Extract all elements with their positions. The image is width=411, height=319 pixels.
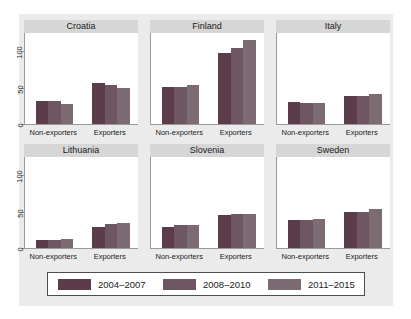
bar xyxy=(369,209,382,248)
x-axis-tick-label: Non-exporters xyxy=(281,128,329,137)
panel-title: Finland xyxy=(150,20,264,33)
legend: 2004–20072008–20102011–2015 xyxy=(47,272,365,296)
bar-group-container xyxy=(25,157,138,248)
bar xyxy=(117,88,130,124)
bar-group-container xyxy=(151,33,264,124)
bar xyxy=(300,220,313,248)
bar xyxy=(288,220,301,248)
x-axis-labels: Non-exportersExporters xyxy=(24,125,138,138)
panel-slovenia: SloveniaNon-exportersExporters xyxy=(150,144,264,262)
bar-group-container xyxy=(25,33,138,124)
legend-item[interactable]: 2011–2015 xyxy=(268,278,355,290)
bar xyxy=(174,225,187,248)
x-axis-tick-label: Non-exporters xyxy=(281,252,329,261)
bar xyxy=(231,48,244,124)
x-axis-tick-label: Exporters xyxy=(220,128,252,137)
bar xyxy=(48,101,61,124)
y-axis-tick-label: 0 xyxy=(16,123,25,127)
plot-area xyxy=(276,157,390,249)
bar xyxy=(344,212,357,248)
y-axis-tick-label: 50 xyxy=(16,209,25,217)
panel-title: Italy xyxy=(276,20,390,33)
bar xyxy=(187,85,200,124)
bar xyxy=(36,101,49,124)
legend-item[interactable]: 2004–2007 xyxy=(58,278,146,290)
bar xyxy=(92,83,105,124)
plot-area xyxy=(276,33,390,125)
bar xyxy=(357,212,370,248)
x-axis-tick-label: Exporters xyxy=(220,252,252,261)
bar xyxy=(48,240,61,248)
bar xyxy=(218,215,231,248)
bar xyxy=(105,224,118,248)
x-axis-tick-label: Exporters xyxy=(346,252,378,261)
bar xyxy=(61,104,74,124)
panel-croatia: CroatiaNon-exportersExporters050100 xyxy=(24,20,138,138)
x-axis-tick-label: Non-exporters xyxy=(155,128,203,137)
bar xyxy=(92,227,105,248)
figure: CroatiaNon-exportersExporters050100Finla… xyxy=(0,0,411,319)
panel-finland: FinlandNon-exportersExporters xyxy=(150,20,264,138)
y-axis-tick-label: 100 xyxy=(16,46,25,59)
panel-title: Sweden xyxy=(276,144,390,157)
legend-label: 2011–2015 xyxy=(308,279,355,290)
panel-title: Lithuania xyxy=(24,144,138,157)
x-axis-labels: Non-exportersExporters xyxy=(150,125,264,138)
bar xyxy=(243,40,256,124)
x-axis-labels: Non-exportersExporters xyxy=(24,249,138,262)
y-axis-tick-label: 50 xyxy=(16,85,25,93)
bar xyxy=(117,223,130,248)
bar xyxy=(300,103,313,124)
x-axis-tick-label: Exporters xyxy=(346,128,378,137)
plot-area xyxy=(24,157,138,249)
bar xyxy=(61,239,74,248)
panel-sweden: SwedenNon-exportersExporters xyxy=(276,144,390,262)
y-axis: 050100 xyxy=(7,157,24,249)
bar xyxy=(369,94,382,124)
bar-group-container xyxy=(277,157,390,248)
plot-area xyxy=(150,33,264,125)
y-axis: 050100 xyxy=(7,33,24,125)
y-axis-tick-label: 100 xyxy=(16,170,25,183)
y-axis-tick-label: 0 xyxy=(16,247,25,251)
x-axis-tick-label: Exporters xyxy=(94,128,126,137)
legend-label: 2008–2010 xyxy=(203,279,251,290)
bar xyxy=(313,219,326,248)
bar xyxy=(313,103,326,124)
bar xyxy=(105,85,118,124)
x-axis-tick-label: Non-exporters xyxy=(29,252,77,261)
legend-label: 2004–2007 xyxy=(98,279,146,290)
x-axis-labels: Non-exportersExporters xyxy=(150,249,264,262)
legend-swatch xyxy=(163,279,196,290)
legend-item[interactable]: 2008–2010 xyxy=(163,278,251,290)
bar xyxy=(174,87,187,124)
panel-title: Slovenia xyxy=(150,144,264,157)
x-axis-labels: Non-exportersExporters xyxy=(276,249,390,262)
bar xyxy=(187,225,200,248)
x-axis-tick-label: Non-exporters xyxy=(155,252,203,261)
legend-swatch xyxy=(268,279,301,290)
bar xyxy=(288,102,301,124)
bar xyxy=(231,214,244,248)
panel-italy: ItalyNon-exportersExporters xyxy=(276,20,390,138)
panel-grid: CroatiaNon-exportersExporters050100Finla… xyxy=(24,20,390,262)
panel-title: Croatia xyxy=(24,20,138,33)
panel-lithuania: LithuaniaNon-exportersExporters050100 xyxy=(24,144,138,262)
legend-swatch xyxy=(58,279,91,290)
bar xyxy=(243,214,256,248)
plot-area xyxy=(150,157,264,249)
bar xyxy=(162,87,175,124)
bar xyxy=(357,96,370,124)
x-axis-labels: Non-exportersExporters xyxy=(276,125,390,138)
bar xyxy=(36,240,49,248)
bar-group-container xyxy=(277,33,390,124)
x-axis-tick-label: Non-exporters xyxy=(29,128,77,137)
bar xyxy=(218,53,231,124)
bar xyxy=(162,227,175,248)
bar xyxy=(344,96,357,124)
plot-area xyxy=(24,33,138,125)
x-axis-tick-label: Exporters xyxy=(94,252,126,261)
bar-group-container xyxy=(151,157,264,248)
